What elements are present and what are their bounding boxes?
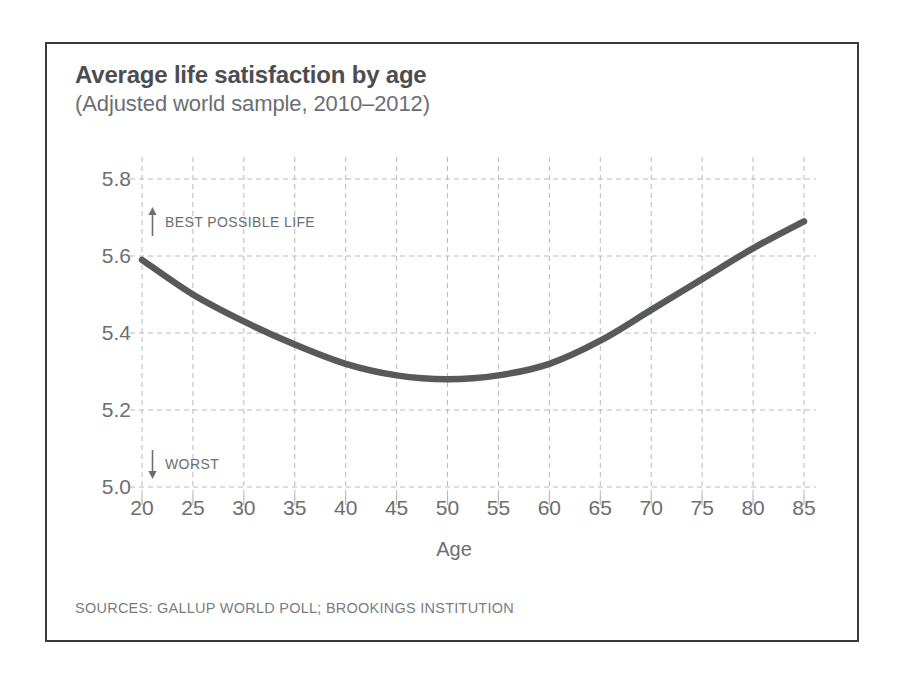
x-tick-label: 55: [487, 496, 510, 520]
arrow-down-icon: [147, 449, 158, 479]
x-tick-label: 80: [741, 496, 764, 520]
x-tick-label: 25: [181, 496, 204, 520]
x-tick-label: 35: [283, 496, 306, 520]
x-tick-label: 20: [130, 496, 153, 520]
annotation-worst-label: WORST: [165, 456, 219, 472]
x-tick-label: 65: [589, 496, 612, 520]
x-tick-label: 30: [232, 496, 255, 520]
x-tick-label: 45: [385, 496, 408, 520]
x-axis-title: Age: [47, 538, 861, 561]
x-tick-label: 70: [640, 496, 663, 520]
x-tick-label: 50: [436, 496, 459, 520]
annotation-best-possible-life: BEST POSSIBLE LIFE: [147, 207, 315, 237]
plot-area: 5.05.25.45.65.8 202530354045505560657075…: [47, 44, 861, 644]
x-tick-label: 85: [792, 496, 815, 520]
x-tick-label: 40: [334, 496, 357, 520]
source-note: SOURCES: GALLUP WORLD POLL; BROOKINGS IN…: [75, 600, 514, 616]
annotation-best-label: BEST POSSIBLE LIFE: [165, 214, 315, 230]
arrow-up-icon: [147, 207, 158, 237]
x-tick-label: 60: [538, 496, 561, 520]
chart-figure-frame: Average life satisfaction by age (Adjust…: [45, 42, 859, 642]
annotation-worst: WORST: [147, 449, 219, 479]
x-tick-label: 75: [690, 496, 713, 520]
